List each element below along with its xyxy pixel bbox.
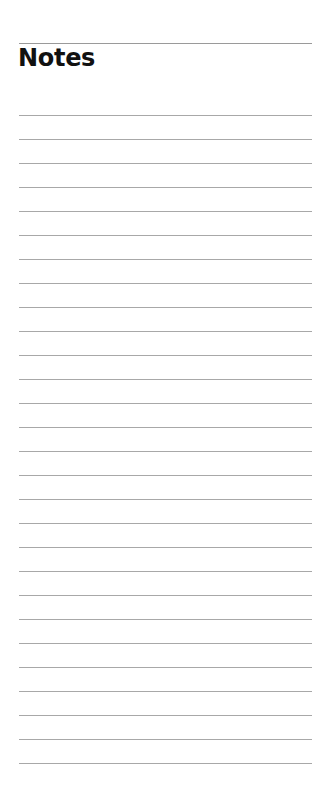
writing-line (19, 259, 312, 260)
writing-line (19, 691, 312, 692)
writing-line (19, 307, 312, 308)
writing-line (19, 451, 312, 452)
writing-line (19, 739, 312, 740)
writing-line (19, 115, 312, 116)
writing-line (19, 547, 312, 548)
notes-page: Notes (0, 0, 327, 805)
writing-line (19, 379, 312, 380)
writing-line (19, 715, 312, 716)
writing-line (19, 427, 312, 428)
writing-line (19, 355, 312, 356)
page-title: Notes (18, 44, 95, 72)
writing-line (19, 595, 312, 596)
writing-line (19, 235, 312, 236)
writing-line (19, 187, 312, 188)
writing-line (19, 331, 312, 332)
writing-line (19, 283, 312, 284)
writing-line (19, 643, 312, 644)
writing-line (19, 667, 312, 668)
writing-line (19, 763, 312, 764)
writing-line (19, 499, 312, 500)
writing-line (19, 403, 312, 404)
writing-line (19, 619, 312, 620)
writing-line (19, 163, 312, 164)
writing-line (19, 211, 312, 212)
writing-line (19, 523, 312, 524)
writing-line (19, 139, 312, 140)
writing-line (19, 571, 312, 572)
writing-line (19, 475, 312, 476)
